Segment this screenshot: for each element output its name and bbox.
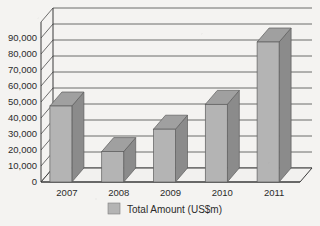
y-axis-tick-labels: 010,00020,00030,00040,00050,00060,00070,… [8,32,37,187]
x-axis-tick-labels: 20072008200920102011 [56,187,284,198]
y-axis-tick-label: 70,000 [8,64,37,75]
y-axis-tick-label: 30,000 [8,128,37,139]
x-axis-tick-label: 2008 [108,187,129,198]
x-axis-tick-label: 2010 [212,187,233,198]
y-axis-tick-label: 0 [32,176,37,187]
bar-front-face [205,104,227,182]
bar-side-face [279,28,291,182]
y-axis-tick-label: 50,000 [8,96,37,107]
chart-legend: Total Amount (US$m) [108,203,222,215]
y-axis-tick-label: 80,000 [8,48,37,59]
y-axis-tick-label: 40,000 [8,112,37,123]
chart-canvas: 010,00020,00030,00040,00050,00060,00070,… [0,0,320,226]
legend-swatch [108,203,120,214]
y-axis-tick-label: 20,000 [8,144,37,155]
grid-line-top [41,8,312,22]
y-axis-tick-label: 60,000 [8,80,37,91]
bar-front-face [154,129,176,182]
bar-side-face [72,92,84,182]
bar [50,92,84,182]
bar-front-face [50,106,72,182]
y-axis-tick-label: 90,000 [8,32,37,43]
bar [205,90,239,182]
bar [257,28,291,182]
bar [154,115,188,182]
bar-front-face [257,42,279,182]
bar-front-face [102,152,124,182]
x-axis-tick-label: 2011 [264,187,284,198]
bar-series [50,28,291,182]
bar-side-face [227,90,239,182]
bar-chart: 010,00020,00030,00040,00050,00060,00070,… [0,0,320,226]
x-axis-tick-label: 2009 [160,187,181,198]
legend-label: Total Amount (US$m) [127,204,222,215]
y-axis-tick-label: 10,000 [8,160,37,171]
x-axis-tick-label: 2007 [56,187,77,198]
